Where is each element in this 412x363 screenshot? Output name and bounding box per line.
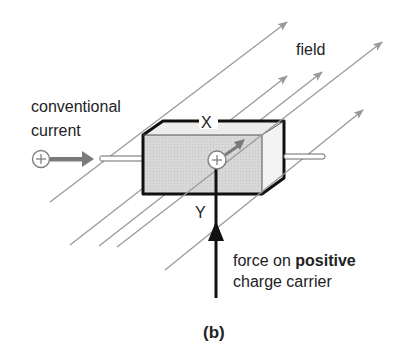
conventional-current-label-line1: conventional: [31, 98, 121, 115]
panel-label: (b): [203, 323, 225, 342]
force-label-line1: force on positive: [233, 252, 356, 269]
conventional-current-label-line2: current: [31, 122, 81, 139]
slab-front-face: [143, 135, 262, 194]
arrow-right-icon: [50, 151, 94, 167]
field-label: field: [296, 41, 325, 58]
force-label-prefix: force on: [233, 252, 295, 269]
carrier-charge: [208, 151, 226, 169]
force-label-line2: charge carrier: [233, 273, 332, 290]
current-charge: [33, 151, 50, 168]
right-contact-rod: [284, 154, 325, 159]
axis-y-label: Y: [195, 204, 206, 221]
left-contact-rod: [100, 156, 144, 161]
force-label-bold: positive: [295, 252, 356, 269]
axis-x-label: X: [201, 114, 212, 131]
hall-effect-diagram: field conventional current X: [0, 0, 412, 363]
